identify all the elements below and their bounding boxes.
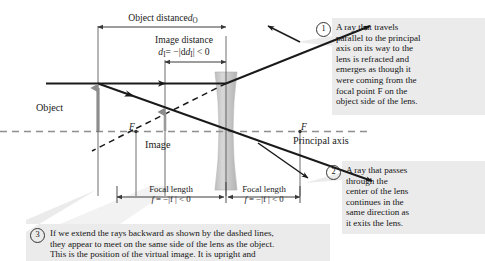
callout-2-text: A ray that passes through the center of …	[346, 165, 482, 229]
focal-length-right-eq-text: = −|f | < 0	[249, 194, 284, 204]
focal-length-left-eq-text: = −|f | < 0	[156, 194, 191, 204]
focal-length-right-line1: Focal length	[227, 184, 301, 194]
focal-point-right-label: F	[301, 123, 307, 133]
callout-2-leader-line	[258, 143, 308, 178]
object-distance-subscript: O	[193, 17, 198, 25]
focal-length-right-symbol: f	[244, 194, 246, 204]
object-distance-text: Object distance	[128, 12, 187, 23]
focal-length-right-label: Focal length f = −|f | < 0	[227, 184, 301, 204]
callout-2-number: 2	[326, 165, 341, 180]
image-distance-label: Image distance dI= −|ddI| < 0	[141, 34, 227, 59]
ray-1-backward-extension	[133, 84, 226, 131]
callout-1-number: 1	[316, 22, 331, 37]
image-distance-equation: dI= −|ddI| < 0	[141, 46, 227, 59]
callout-1-leader-line	[268, 26, 300, 42]
object-label: Object	[36, 103, 63, 113]
focal-length-left-line1: Focal length	[117, 184, 225, 194]
image-distance-line1: Image distance	[141, 34, 227, 45]
focal-point-left-label: F	[129, 123, 135, 133]
focal-length-left-symbol: f	[151, 194, 153, 204]
focal-length-left-label: Focal length f = −|f | < 0	[117, 184, 225, 204]
focal-length-right-equation: f = −|f | < 0	[227, 194, 301, 204]
principal-axis-label: Principal axis	[293, 136, 349, 146]
image-label: Image	[145, 140, 170, 150]
callout-1-text: A ray that travels parallel to the princ…	[336, 22, 482, 107]
ray-diagram-figure: Object Image Principal axis F F Object d…	[0, 0, 485, 261]
object-distance-label: Object distancedO	[109, 12, 217, 25]
callout-3-number: 3	[30, 228, 45, 243]
image-distance-eq-head: = −|d	[166, 46, 186, 57]
callout-3-text: If we extend the rays backward as shown …	[50, 228, 328, 260]
image-distance-eq-tail: | < 0	[193, 46, 210, 57]
focal-length-left-equation: f = −|f | < 0	[117, 194, 225, 204]
